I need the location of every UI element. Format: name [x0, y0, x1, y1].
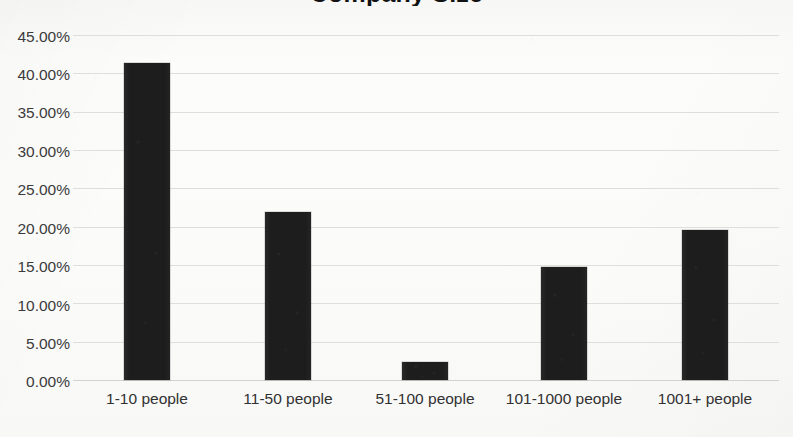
plot-area — [73, 35, 779, 380]
y-axis-tick-label-10: 10.00% — [0, 298, 70, 314]
gridline-30 — [73, 150, 779, 151]
gridline-5 — [73, 342, 779, 343]
gridline-25 — [73, 188, 779, 189]
gridline-baseline-0 — [73, 380, 779, 381]
y-axis-tick-label-20: 20.00% — [0, 221, 70, 237]
bar-51-100-people[interactable] — [402, 362, 448, 380]
y-axis-tick-label-5: 5.00% — [0, 336, 70, 352]
y-axis-tick-label-15: 15.00% — [0, 259, 70, 275]
x-axis-tick-label-1001-plus-people: 1001+ people — [620, 391, 790, 407]
bar-1001-plus-people[interactable] — [682, 230, 728, 380]
gridline-20 — [73, 227, 779, 228]
bar-11-50-people[interactable] — [265, 212, 311, 380]
gridline-40 — [73, 73, 779, 74]
bar-chart-figure: Company Size 45.00% 40.00% 35.00% 30.00%… — [0, 0, 793, 437]
chart-title-clipped-region: Company Size — [0, 0, 793, 6]
y-axis-tick-label-40: 40.00% — [0, 67, 70, 83]
y-axis-tick-label-30: 30.00% — [0, 144, 70, 160]
gridline-15 — [73, 265, 779, 266]
chart-title: Company Size — [0, 0, 793, 6]
bar-1-10-people[interactable] — [124, 63, 170, 380]
gridline-35 — [73, 112, 779, 113]
y-axis-tick-label-35: 35.00% — [0, 105, 70, 121]
bar-101-1000-people[interactable] — [541, 267, 587, 380]
y-axis-tick-label-25: 25.00% — [0, 182, 70, 198]
y-axis-tick-label-45: 45.00% — [0, 29, 70, 45]
gridline-45 — [73, 35, 779, 36]
gridline-10 — [73, 303, 779, 304]
y-axis-tick-label-0: 0.00% — [0, 374, 70, 390]
